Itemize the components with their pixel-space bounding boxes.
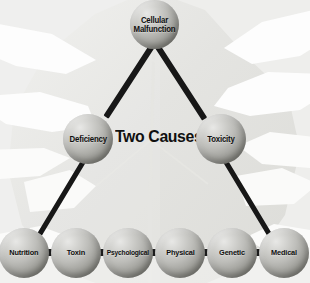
node-deficiency[interactable]: Deficiency: [63, 114, 113, 164]
node-nutrition[interactable]: Nutrition: [0, 228, 49, 278]
node-label-toxin: Toxin: [67, 249, 85, 257]
diagram-title: Two Causes: [115, 127, 195, 147]
node-label-medical: Medical: [271, 249, 297, 257]
node-toxicity[interactable]: Toxicity: [196, 114, 246, 164]
node-label-nutrition: Nutrition: [9, 249, 38, 257]
node-genetic[interactable]: Genetic: [207, 228, 257, 278]
node-toxin[interactable]: Toxin: [51, 228, 101, 278]
node-label-genetic: Genetic: [219, 249, 245, 257]
node-psychological[interactable]: Psychological: [103, 228, 153, 278]
node-physical[interactable]: Physical: [155, 228, 205, 278]
node-label-physical: Physical: [166, 249, 194, 257]
diagram-canvas: Two Causes Cellular Malfunction Deficien…: [0, 0, 310, 283]
node-label-cellular-malfunction: Cellular Malfunction: [132, 16, 177, 34]
node-label-toxicity: Toxicity: [207, 135, 234, 144]
node-label-psychological: Psychological: [107, 249, 149, 257]
node-label-deficiency: Deficiency: [69, 135, 106, 144]
node-cellular-malfunction[interactable]: Cellular Malfunction: [130, 0, 179, 49]
node-medical[interactable]: Medical: [259, 228, 309, 278]
